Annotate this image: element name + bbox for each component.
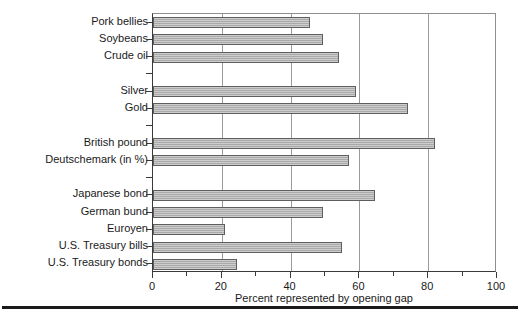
x-tick-minor: [393, 272, 394, 276]
x-tick-label: 20: [201, 280, 241, 292]
bar-row: [153, 138, 497, 149]
x-tick-major: [427, 272, 428, 278]
y-axis-label: Pork bellies: [0, 16, 148, 27]
bar: [153, 224, 225, 235]
bar: [153, 17, 310, 28]
x-tick-minor: [255, 272, 256, 276]
x-tick-minor: [462, 272, 463, 276]
bar: [153, 259, 237, 270]
x-tick-major: [358, 272, 359, 278]
x-tick-major: [290, 272, 291, 278]
bar-row: [153, 17, 497, 28]
y-axis-label: Crude oil: [0, 50, 148, 61]
y-axis-label: British pound: [0, 137, 148, 148]
y-axis-label: Soybeans: [0, 33, 148, 44]
x-tick-major: [221, 272, 222, 278]
bottom-rule: [2, 306, 518, 309]
bar: [153, 207, 323, 218]
y-axis-label: German bund: [0, 206, 148, 217]
x-tick-minor: [324, 272, 325, 276]
x-tick-major: [496, 272, 497, 278]
plot-area: [152, 13, 496, 272]
bar: [153, 34, 323, 45]
x-tick-label: 40: [270, 280, 310, 292]
bar: [153, 103, 408, 114]
y-axis-label: U.S. Treasury bills: [0, 240, 148, 251]
bar-chart: Pork belliesSoybeansCrude oilSilverGoldB…: [0, 0, 521, 321]
bar: [153, 242, 342, 253]
bar: [153, 190, 375, 201]
bar: [153, 52, 339, 63]
y-axis-label: Euroyen: [0, 223, 148, 234]
bar-row: [153, 52, 497, 63]
bar-row: [153, 224, 497, 235]
bar: [153, 86, 356, 97]
bar-row: [153, 190, 497, 201]
y-axis-label: Japanese bond: [0, 188, 148, 199]
y-axis-labels: Pork belliesSoybeansCrude oilSilverGoldB…: [0, 0, 148, 321]
bar-row: [153, 103, 497, 114]
y-axis-label: Gold: [0, 102, 148, 113]
bar: [153, 155, 349, 166]
y-axis-label: Silver: [0, 85, 148, 96]
bar-row: [153, 155, 497, 166]
x-tick-label: 100: [476, 280, 516, 292]
x-tick-label: 80: [407, 280, 447, 292]
bar-row: [153, 207, 497, 218]
x-tick-label: 60: [338, 280, 378, 292]
bar-row: [153, 86, 497, 97]
x-tick-major: [152, 272, 153, 278]
bar-row: [153, 259, 497, 270]
bar-row: [153, 34, 497, 45]
bar: [153, 138, 435, 149]
bar-row: [153, 242, 497, 253]
x-tick-minor: [186, 272, 187, 276]
y-axis-label: Deutschemark (in %): [0, 154, 148, 165]
y-axis-label: U.S. Treasury bonds: [0, 257, 148, 268]
x-tick-label: 0: [132, 280, 172, 292]
x-axis-title: Percent represented by opening gap: [152, 292, 496, 304]
